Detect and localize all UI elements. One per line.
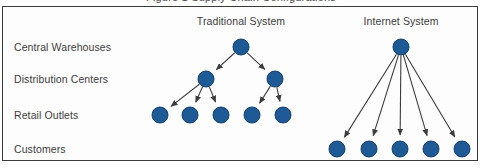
figure-caption: Figure 1 Supply Chain Configurations (0, 0, 482, 3)
panel-heading-traditional-system: Traditional System (197, 15, 285, 27)
tier-label-distribution-centers: Distribution Centers (14, 73, 108, 85)
tier-label-customers: Customers (14, 143, 66, 155)
tier-label-retail-outlets: Retail Outlets (14, 109, 78, 121)
panel-heading-internet-system: Internet System (363, 15, 438, 27)
tier-label-central-warehouses: Central Warehouses (14, 41, 111, 53)
supply-chain-figure: Figure 1 Supply Chain Configurations Cen… (0, 0, 482, 168)
